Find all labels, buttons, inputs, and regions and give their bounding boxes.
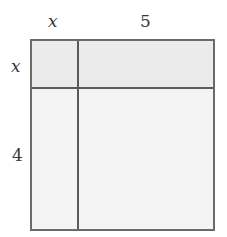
area-model-rectangle [30,39,215,231]
vertical-divider [77,41,79,229]
top-label-x: x [48,13,58,30]
left-label-x: x [11,58,21,75]
left-label-4: 4 [12,147,23,164]
top-row-region [32,41,213,88]
top-label-5: 5 [140,13,151,30]
horizontal-divider [32,87,213,89]
